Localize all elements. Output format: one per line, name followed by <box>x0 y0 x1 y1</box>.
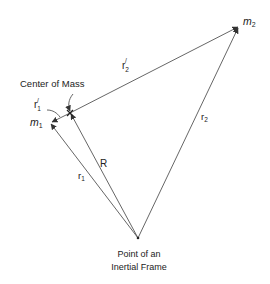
r1-label: r1 <box>78 170 85 182</box>
m2-label: m2 <box>243 15 256 28</box>
r1-prime-label: r1/ <box>34 97 41 112</box>
vector-r2 <box>138 28 238 238</box>
origin-label-line1: Point of an <box>117 249 160 259</box>
origin-label-line2: Inertial Frame <box>111 262 167 272</box>
r2-prime-label: r2/ <box>122 57 129 73</box>
r1-prime-pointer <box>47 110 60 117</box>
two-body-vector-diagram: Center of Mass r1/ m1 r2/ m2 R r1 r2 Poi… <box>0 0 270 284</box>
R-label: R <box>100 158 107 169</box>
r2-label: r2 <box>201 111 208 123</box>
vector-r1 <box>51 124 138 238</box>
center-of-mass-pointer <box>69 94 73 111</box>
m1-label: m1 <box>30 116 43 129</box>
center-of-mass-label: Center of Mass <box>20 78 85 89</box>
origin-point <box>137 237 140 240</box>
vector-r2-prime <box>70 27 238 113</box>
vector-r1-prime <box>52 113 70 122</box>
